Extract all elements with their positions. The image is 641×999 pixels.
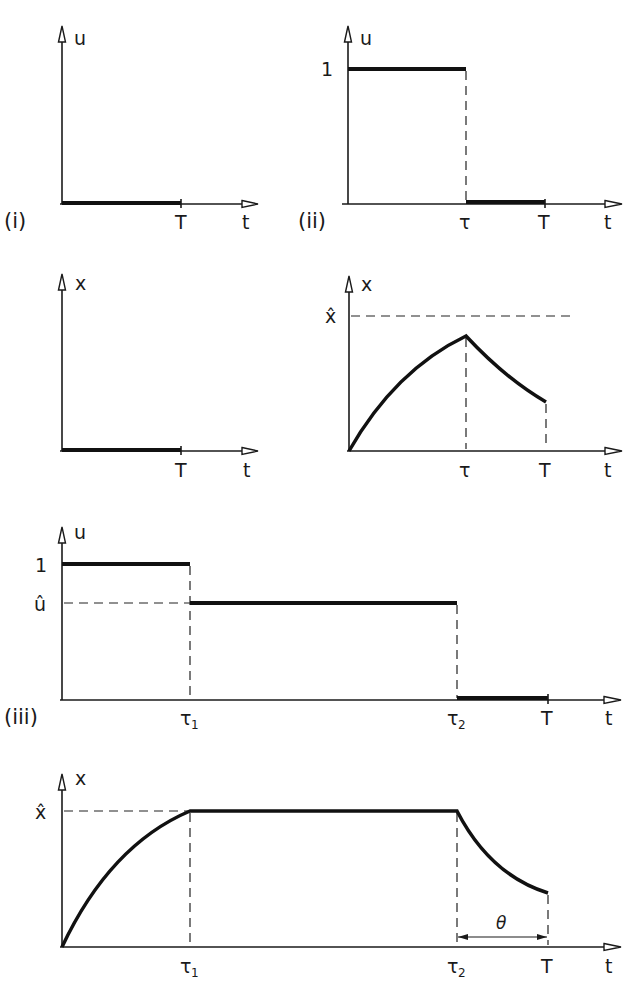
- tick-label-T: T: [174, 211, 187, 233]
- y-axis-arrow-icon: [345, 26, 352, 42]
- x-axis-arrow-icon: [605, 448, 622, 455]
- y-axis-arrow-icon: [59, 274, 66, 290]
- tick-label-T: T: [538, 459, 551, 481]
- svg-text:2: 2: [458, 718, 466, 732]
- tick-label-x-hat: x̂: [325, 305, 336, 327]
- y-axis-label: x: [75, 767, 86, 789]
- arrow-left-icon: [458, 934, 468, 940]
- x-axis-label: t: [242, 211, 249, 233]
- theta-interval-arrow: θ: [458, 913, 547, 940]
- y-axis-arrow-icon: [59, 26, 66, 42]
- panel-label-ii: (ii): [298, 209, 326, 233]
- x-axis-arrow-icon: [604, 944, 621, 951]
- x-axis-arrow-icon: [242, 448, 258, 455]
- y-axis-label: u: [360, 27, 372, 49]
- panel-iii-state-plot: θ x x̂ τ 1 τ 2 T t: [35, 767, 621, 980]
- tick-label-T: T: [537, 211, 550, 233]
- y-axis-arrow-icon: [59, 774, 66, 790]
- panel-i-control-plot: u T t (i): [4, 26, 258, 233]
- tick-label-x-hat: x̂: [35, 801, 46, 823]
- y-axis-label: u: [74, 27, 86, 49]
- panel-label-i: (i): [4, 209, 26, 233]
- tick-label-tau1: τ 1: [180, 707, 199, 732]
- y-axis-label: x: [361, 273, 372, 295]
- y-axis-label: x: [75, 272, 86, 294]
- x-curve: [62, 811, 548, 947]
- svg-text:1: 1: [191, 718, 199, 732]
- svg-text:τ: τ: [180, 707, 191, 729]
- theta-label: θ: [496, 913, 507, 933]
- tick-label-T: T: [540, 955, 553, 977]
- svg-text:1: 1: [191, 966, 199, 980]
- panel-ii-state-plot: x x̂ τ T t: [325, 273, 622, 481]
- x-axis-arrow-icon: [242, 201, 258, 208]
- arrow-right-icon: [537, 934, 547, 940]
- tick-label-tau: τ: [459, 459, 470, 481]
- optimal-control-figure: u T t (i) u 1 τ T t (ii) x T t: [0, 0, 641, 999]
- svg-text:τ: τ: [180, 955, 191, 977]
- y-axis-label: u: [74, 521, 86, 543]
- tick-label-one: 1: [35, 554, 47, 576]
- x-axis-label: t: [604, 211, 611, 233]
- panel-label-iii: (iii): [4, 705, 38, 729]
- tick-label-tau2: τ 2: [447, 707, 466, 732]
- tick-label-one: 1: [321, 58, 333, 80]
- svg-text:τ: τ: [447, 707, 458, 729]
- tick-label-tau1: τ 1: [180, 955, 199, 980]
- panel-ii-control-plot: u 1 τ T t (ii): [298, 26, 622, 233]
- x-axis-label: t: [605, 955, 612, 977]
- x-axis-arrow-icon: [605, 201, 622, 208]
- x-axis-label: t: [604, 459, 611, 481]
- tick-label-T: T: [540, 707, 553, 729]
- x-axis-label: t: [605, 707, 612, 729]
- tick-label-u-hat: û: [34, 593, 46, 615]
- x-curve: [349, 336, 546, 451]
- tick-label-tau: τ: [459, 211, 470, 233]
- y-axis-arrow-icon: [59, 527, 66, 543]
- svg-text:2: 2: [458, 966, 466, 980]
- y-axis-arrow-icon: [346, 276, 353, 292]
- panel-iii-control-plot: u 1 û τ 1 τ 2 T t (iii): [4, 521, 621, 732]
- panel-i-state-plot: x T t: [59, 272, 259, 481]
- x-axis-arrow-icon: [604, 697, 621, 704]
- tick-label-T: T: [174, 459, 187, 481]
- tick-label-tau2: τ 2: [447, 955, 466, 980]
- svg-text:τ: τ: [447, 955, 458, 977]
- x-axis-label: t: [243, 459, 250, 481]
